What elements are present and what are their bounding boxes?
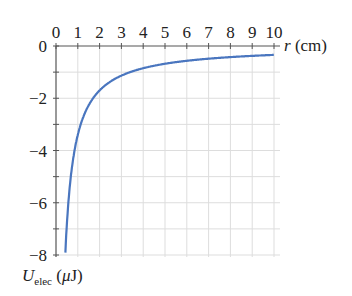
y-tick-label: −2 bbox=[29, 89, 47, 108]
data-line bbox=[65, 55, 273, 253]
x-tick-label: 1 bbox=[74, 23, 83, 42]
x-axis-label: r (cm) bbox=[284, 36, 327, 55]
y-tick-label: −6 bbox=[29, 194, 47, 213]
x-tick-label: 6 bbox=[183, 23, 192, 42]
y-tick-label: −8 bbox=[29, 246, 47, 265]
y-tick-label: 0 bbox=[39, 37, 48, 56]
x-tick-label: 8 bbox=[226, 23, 235, 42]
chart: 012345678910r (cm)0−2−4−6−8Uelec (μJ) bbox=[0, 0, 352, 296]
x-tick-label: 4 bbox=[139, 23, 148, 42]
x-tick-label: 0 bbox=[52, 23, 61, 42]
x-tick-label: 5 bbox=[161, 23, 170, 42]
y-axis-label: Uelec (μJ) bbox=[22, 266, 83, 287]
x-tick-label: 3 bbox=[117, 23, 126, 42]
x-tick-label: 7 bbox=[204, 23, 213, 42]
chart-svg: 012345678910r (cm)0−2−4−6−8Uelec (μJ) bbox=[0, 0, 352, 296]
x-tick-label: 2 bbox=[95, 23, 104, 42]
x-tick-label: 9 bbox=[248, 23, 257, 42]
x-tick-label: 10 bbox=[266, 23, 283, 42]
y-tick-label: −4 bbox=[29, 142, 48, 161]
